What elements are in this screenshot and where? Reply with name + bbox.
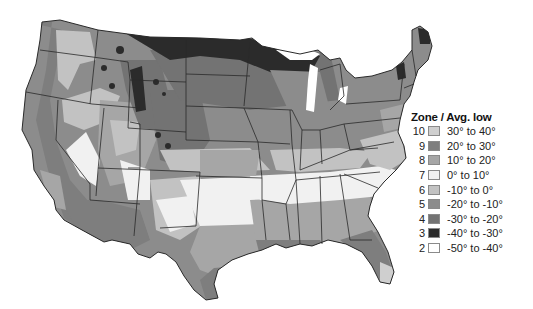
legend-swatch — [428, 141, 440, 151]
legend-swatch — [428, 170, 440, 180]
legend-range: 30° to 40° — [447, 125, 496, 137]
legend-swatch — [428, 185, 440, 195]
legend-swatch — [428, 199, 440, 209]
legend-range: -10° to 0° — [447, 184, 493, 196]
legend-range: -40° to -30° — [447, 227, 503, 239]
legend-range: 0° to 10° — [447, 169, 489, 181]
legend-title: Zone / Avg. low — [411, 111, 533, 123]
legend-item-zone-7: 7 0° to 10° — [411, 168, 533, 183]
legend-zone-number: 5 — [411, 198, 425, 210]
legend-item-zone-4: 4 -30° to -20° — [411, 212, 533, 227]
legend-item-zone-8: 8 10° to 20° — [411, 153, 533, 168]
legend-range: -30° to -20° — [447, 213, 503, 225]
legend-zone-number: 10 — [411, 125, 425, 137]
legend-range: 20° to 30° — [447, 140, 496, 152]
legend-zone-number: 8 — [411, 154, 425, 166]
legend-swatch — [428, 243, 440, 253]
legend-zone-number: 4 — [411, 213, 425, 225]
legend-zone-number: 6 — [411, 184, 425, 196]
legend-item-zone-5: 5 -20° to -10° — [411, 197, 533, 212]
legend-zone-number: 2 — [411, 242, 425, 254]
legend-swatch — [428, 126, 440, 136]
legend-item-zone-6: 6 -10° to 0° — [411, 182, 533, 197]
legend-swatch — [428, 228, 440, 238]
legend-swatch — [428, 214, 440, 224]
legend-zone-number: 7 — [411, 169, 425, 181]
legend: Zone / Avg. low 10 30° to 40° 9 20° to 3… — [411, 111, 533, 255]
legend-zone-number: 3 — [411, 227, 425, 239]
legend-swatch — [428, 155, 440, 165]
legend-item-zone-9: 9 20° to 30° — [411, 139, 533, 154]
legend-zone-number: 9 — [411, 140, 425, 152]
legend-range: 10° to 20° — [447, 154, 496, 166]
legend-range: -20° to -10° — [447, 198, 503, 210]
legend-item-zone-10: 10 30° to 40° — [411, 124, 533, 139]
legend-range: -50° to -40° — [447, 242, 503, 254]
legend-item-zone-3: 3 -40° to -30° — [411, 226, 533, 241]
legend-item-zone-2: 2 -50° to -40° — [411, 241, 533, 256]
